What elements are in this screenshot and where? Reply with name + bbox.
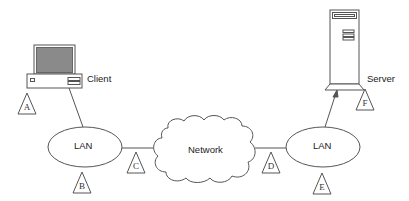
- marker-e-label: E: [313, 182, 331, 192]
- network-label: Network: [188, 144, 223, 155]
- server-label: Server: [367, 73, 395, 84]
- client-computer-icon: [27, 45, 82, 88]
- arrow-head-icon: [333, 90, 338, 97]
- lan-left-label: LAN: [74, 140, 92, 151]
- server-tower-icon: [325, 10, 364, 90]
- network-diagram: [0, 0, 409, 201]
- marker-f-label: F: [356, 98, 374, 108]
- lan-right-label: LAN: [313, 140, 331, 151]
- marker-d-label: D: [262, 161, 280, 171]
- link-client-lan: [69, 88, 83, 127]
- marker-a-label: A: [18, 102, 36, 112]
- link-lan-server: [325, 93, 336, 127]
- marker-c-label: C: [127, 161, 145, 171]
- marker-b-label: B: [73, 181, 91, 191]
- client-label: Client: [87, 73, 111, 84]
